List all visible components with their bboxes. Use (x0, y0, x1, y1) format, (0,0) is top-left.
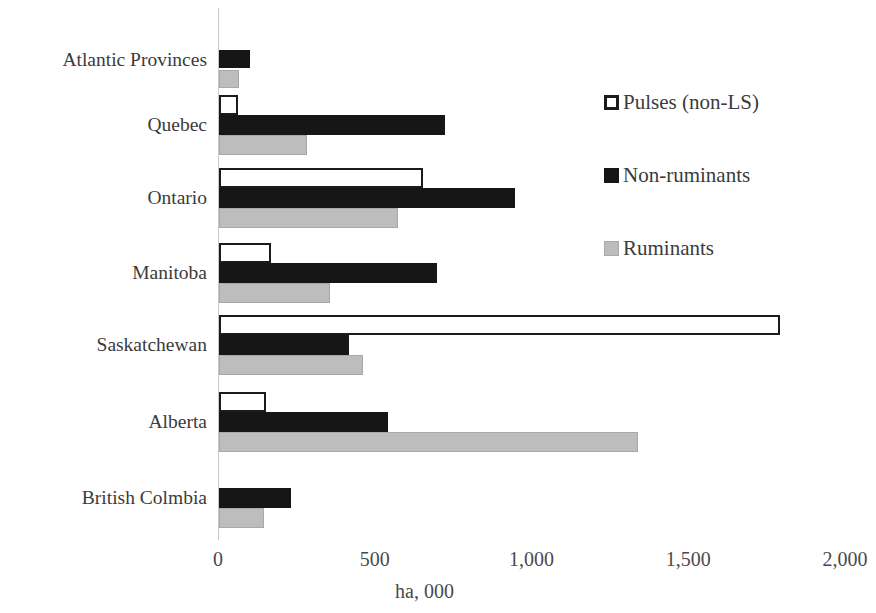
x-tick-label: 2,000 (823, 548, 868, 571)
x-tick-label: 1,500 (666, 548, 711, 571)
x-axis-title-text: ha, 000 (395, 580, 454, 602)
category-label: British Colmbia (0, 488, 207, 508)
bar-ruminants (219, 135, 307, 155)
legend-label-ruminants: Ruminants (623, 238, 714, 259)
x-tick-label: 0 (213, 548, 223, 571)
x-tick-label: 1,000 (509, 548, 554, 571)
bar-non-ruminants (219, 335, 349, 355)
bar-non-ruminants (219, 50, 250, 68)
category-label: Ontario (0, 188, 207, 208)
bar-pulses (219, 168, 423, 188)
category-label: Saskatchewan (0, 335, 207, 355)
legend-label-pulses: Pulses (non-LS) (623, 92, 759, 113)
legend-item-pulses: Pulses (non-LS) (604, 92, 759, 113)
bar-pulses (219, 392, 266, 412)
bar-pulses (219, 95, 238, 115)
bar-non-ruminants (219, 263, 437, 283)
pulses-swatch-icon (604, 95, 619, 110)
category-label: Alberta (0, 412, 207, 432)
x-tick-label: 500 (360, 548, 390, 571)
category-label: Atlantic Provinces (0, 50, 207, 70)
bar-ruminants (219, 355, 363, 375)
bar-ruminants (219, 70, 239, 88)
bar-ruminants (219, 283, 330, 303)
bar-ruminants (219, 208, 398, 228)
category-label: Manitoba (0, 263, 207, 283)
category-label: Quebec (0, 115, 207, 135)
bar-non-ruminants (219, 488, 291, 508)
bar-pulses (219, 243, 271, 263)
ruminants-swatch-icon (604, 241, 619, 256)
non-ruminants-swatch-icon (604, 168, 619, 183)
bar-non-ruminants (219, 412, 388, 432)
legend-label-non-ruminants: Non-ruminants (623, 165, 750, 186)
bar-non-ruminants (219, 115, 445, 135)
legend-item-non-ruminants: Non-ruminants (604, 165, 750, 186)
chart-page: Atlantic ProvincesQuebecOntarioManitobaS… (0, 0, 876, 613)
bar-ruminants (219, 432, 638, 452)
bar-ruminants (219, 508, 264, 528)
bar-pulses (219, 315, 780, 335)
x-axis-title: ha, 000 (395, 580, 454, 603)
legend-item-ruminants: Ruminants (604, 238, 714, 259)
bar-non-ruminants (219, 188, 515, 208)
